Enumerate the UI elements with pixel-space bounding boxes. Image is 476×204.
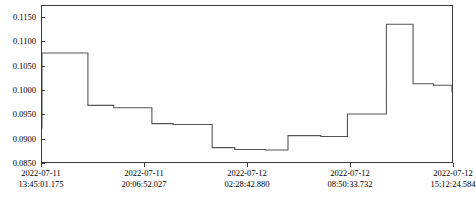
x-axis-tick-mark (41, 163, 42, 167)
y-axis-tick-mark (41, 41, 45, 42)
x-axis-tick-label: 2022-07-1215:12:24.584 (430, 168, 475, 191)
x-axis-tick-date: 2022-07-12 (327, 168, 372, 179)
y-axis-tick-label: 0.0950 (13, 110, 36, 119)
x-axis-tick-mark (453, 163, 454, 167)
series-polyline (42, 24, 452, 150)
y-axis-tick-mark (41, 139, 45, 140)
x-axis-tick-date: 2022-07-12 (430, 168, 475, 179)
x-axis-tick-mark (144, 163, 145, 167)
y-axis-tick-label: 0.0850 (13, 159, 36, 168)
x-axis-tick-time: 08:50:33.732 (327, 179, 372, 190)
y-axis-tick-mark (41, 66, 45, 67)
y-axis-tick-label: 0.0900 (13, 134, 36, 143)
x-axis-tick-label: 2022-07-1113:45:01.175 (18, 168, 63, 191)
x-axis-tick-time: 02:28:42.880 (224, 179, 269, 190)
x-axis-tick-date: 2022-07-11 (18, 168, 63, 179)
x-axis-tick-date: 2022-07-11 (121, 168, 166, 179)
x-axis-tick-time: 15:12:24.584 (430, 179, 475, 190)
y-axis-tick-label: 0.1050 (13, 62, 36, 71)
step-line-series (42, 6, 452, 162)
x-axis-tick-time: 20:06:52.027 (121, 179, 166, 190)
x-axis-tick-label: 2022-07-1208:50:33.732 (327, 168, 372, 191)
plot-area (41, 5, 453, 163)
x-axis-tick-label: 2022-07-1202:28:42.880 (224, 168, 269, 191)
x-axis-tick-mark (247, 163, 248, 167)
x-axis-tick-time: 13:45:01.175 (18, 179, 63, 190)
x-axis-tick-date: 2022-07-12 (224, 168, 269, 179)
x-axis-tick-label: 2022-07-1120:06:52.027 (121, 168, 166, 191)
y-axis-tick-mark (41, 114, 45, 115)
y-axis-tick-label: 0.1100 (13, 37, 36, 46)
y-axis-tick-label: 0.1150 (13, 13, 36, 22)
y-axis-tick-label: 0.1000 (13, 86, 36, 95)
y-axis-tick-mark (41, 17, 45, 18)
x-axis-tick-mark (350, 163, 351, 167)
y-axis-tick-mark (41, 90, 45, 91)
